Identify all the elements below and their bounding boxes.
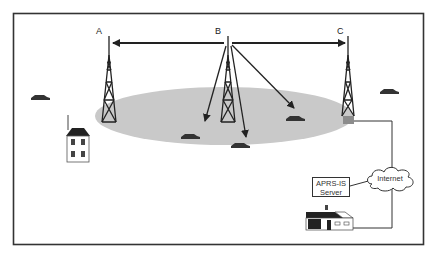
aprs-is-server-box: APRS-IS Server: [312, 177, 350, 197]
server-label-line2: Server: [313, 188, 349, 197]
diagram-canvas: [0, 0, 437, 253]
igate-box: [343, 116, 354, 124]
aprs-network-diagram: A B C APRS-IS Server Internet: [0, 0, 437, 253]
tower-c-label: C: [337, 26, 344, 36]
tower-b-label: B: [215, 26, 221, 36]
server-label-line1: APRS-IS: [313, 179, 349, 188]
internet-label: Internet: [369, 174, 411, 183]
tower-a-label: A: [96, 26, 102, 36]
